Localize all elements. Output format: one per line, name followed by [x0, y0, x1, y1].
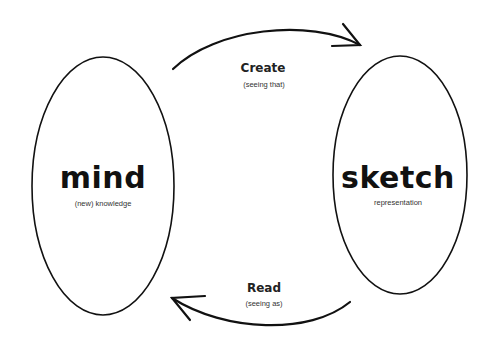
sketch-title: sketch — [341, 160, 455, 195]
sketch-subtitle: representation — [374, 198, 422, 207]
read-sublabel: (seeing as) — [245, 299, 282, 308]
read-label: Read — [247, 281, 281, 295]
mind-title: mind — [60, 160, 146, 195]
create-sublabel: (seeing that) — [243, 80, 285, 89]
create-label: Create — [241, 61, 286, 75]
mind-subtitle: (new) knowledge — [75, 199, 132, 208]
